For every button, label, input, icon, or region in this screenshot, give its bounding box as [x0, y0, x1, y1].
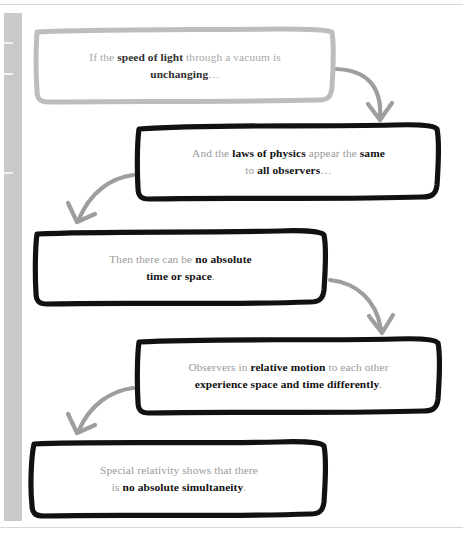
node-4-border — [132, 335, 445, 417]
arrow-2 — [68, 175, 133, 222]
node-5-border — [26, 438, 332, 520]
flowchart: If the speed of light through a vacuum i… — [0, 0, 463, 540]
node-3-border — [31, 227, 330, 309]
arrow-4 — [68, 388, 133, 433]
page-canvas: If the speed of light through a vacuum i… — [0, 0, 463, 540]
flow-node-3[interactable]: Then there can be no absolute time or sp… — [36, 232, 325, 304]
node-1-border — [31, 25, 339, 107]
flow-node-1[interactable]: If the speed of light through a vacuum i… — [36, 30, 334, 102]
node-2-border — [132, 121, 445, 203]
flow-node-2[interactable]: And the laws of physics appear the same … — [137, 126, 440, 198]
arrow-3 — [330, 280, 393, 333]
arrow-1 — [336, 69, 392, 120]
flow-node-4[interactable]: Observers in relative motion to each oth… — [137, 340, 440, 412]
flow-node-5[interactable]: Special relativity shows that there is n… — [31, 443, 327, 515]
